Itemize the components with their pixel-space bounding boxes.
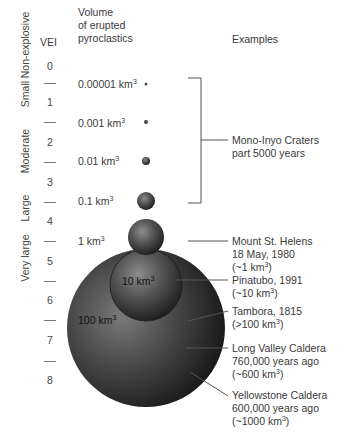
mono-inyo-bracket bbox=[188, 78, 228, 203]
vei-divider bbox=[44, 361, 56, 362]
volume-label-0.01: 0.01 km3 bbox=[78, 155, 119, 168]
vei-1: 1 bbox=[40, 96, 60, 108]
examples-header: Examples bbox=[232, 33, 278, 46]
volume-header-line3: pyroclastics bbox=[78, 32, 133, 45]
vei-divider bbox=[44, 241, 56, 242]
volume-header-line1: Volume bbox=[78, 6, 113, 19]
sphere-0.01km3 bbox=[142, 157, 150, 165]
sphere-1km3 bbox=[128, 219, 164, 255]
sphere-0.001km3 bbox=[144, 120, 148, 124]
category-large: Large bbox=[19, 195, 31, 222]
category-moderate: Moderate bbox=[19, 129, 31, 173]
volume-label-0.1: 0.1 km3 bbox=[78, 195, 113, 208]
vei-3: 3 bbox=[40, 176, 60, 188]
vei-2: 2 bbox=[40, 136, 60, 148]
volume-label-100: 100 km3 bbox=[78, 314, 116, 327]
category-non-explosive: Non-explosive bbox=[19, 12, 31, 79]
volume-header-line2: of erupted bbox=[78, 19, 125, 32]
vei-header: VEI bbox=[40, 36, 57, 49]
category-small: Small bbox=[19, 81, 31, 107]
vei-divider bbox=[44, 122, 56, 123]
volume-label-1: 1 km3 bbox=[78, 235, 105, 248]
example-mono-inyo: Mono-Inyo Craters part 5000 years bbox=[232, 134, 319, 160]
category-very-large: Very large bbox=[19, 234, 31, 281]
vei-5: 5 bbox=[40, 255, 60, 267]
vei-divider bbox=[44, 281, 56, 282]
example-mount-st-helens: Mount St. Helens 18 May, 1980 (~1 km3) bbox=[232, 235, 313, 274]
vei-divider bbox=[44, 320, 56, 321]
vei-8: 8 bbox=[40, 374, 60, 386]
vei-divider bbox=[44, 83, 56, 84]
vei-6: 6 bbox=[40, 294, 60, 306]
example-tambora: Tambora, 1815 (>100 km3) bbox=[232, 305, 302, 331]
vei-4: 4 bbox=[40, 215, 60, 227]
vei-7: 7 bbox=[40, 334, 60, 346]
example-pinatubo: Pinatubo, 1991 (~10 km3) bbox=[232, 274, 303, 300]
vei-0: 0 bbox=[40, 60, 60, 72]
sphere-0.1km3 bbox=[137, 192, 155, 210]
vei-divider bbox=[44, 162, 56, 163]
example-long-valley: Long Valley Caldera 760,000 years ago (~… bbox=[232, 342, 326, 381]
example-yellowstone: Yellowstone Caldera 600,000 years ago (~… bbox=[232, 389, 327, 428]
volume-label-0.001: 0.001 km3 bbox=[78, 117, 125, 130]
volume-label-0.00001: 0.00001 km3 bbox=[78, 78, 137, 91]
vei-divider bbox=[44, 202, 56, 203]
sphere-0.00001km3 bbox=[145, 83, 148, 86]
volume-label-10: 10 km3 bbox=[122, 275, 155, 288]
